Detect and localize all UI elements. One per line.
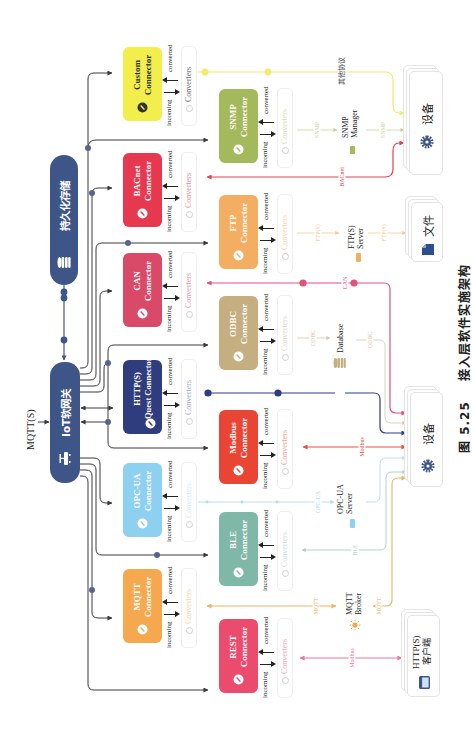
odbc-link-label: ODBC [310,329,317,348]
plugin-icon [145,418,156,429]
converted-label: converted [166,566,174,594]
incoming-label: incoming [261,672,269,698]
bus-to-snmp [88,140,208,148]
incoming-label: incoming [165,306,173,332]
converters-box[interactable]: Converters [181,359,197,439]
plugin-icon [233,351,244,362]
converters-box[interactable]: Converters [181,252,197,332]
connector-http-quest: HTTP(S)Quest Connector incoming converte… [123,360,199,434]
ftp-server[interactable]: FTP(S) Server [347,225,365,249]
odbc-link-lower [356,340,406,423]
converters-box[interactable]: Converters [277,618,293,698]
connector-mqtt: MQTTConnector incoming converted Convert… [123,569,199,643]
connector-name: CustomConnector [132,49,154,101]
converters-box[interactable]: Converters [277,409,293,489]
router-icon [58,451,71,466]
custom-connector-box[interactable]: CustomConnector [123,47,162,121]
bus-junction-dot [89,190,95,196]
snmp-connector-box[interactable]: SNMPConnector [219,89,258,163]
mqtt-connector-box[interactable]: MQTTConnector [123,569,162,643]
connector-name-line1: FTP [228,197,239,249]
ble-connector-box[interactable]: BLEConnector [219,512,258,586]
mqtt-link-label: MQTT [376,597,383,616]
converters-box[interactable]: Converters [181,568,197,648]
modbus-connector-box[interactable]: ModbusConnector [219,410,258,484]
file-label: 文件 [420,215,436,237]
ftp-connector-box[interactable]: FTPConnector [219,195,258,269]
snmp-manager[interactable]: SNMP Manager [341,110,359,138]
connector-name: ModbusConnector [228,412,250,464]
connector-name-line2: Connector [143,465,154,517]
mqtt-broker-line2: Broker [354,592,363,615]
converters-box[interactable]: Converters [181,46,197,126]
converters-box[interactable]: Converters [277,88,293,168]
opcua-connector-box[interactable]: OPC-UAConnector [123,463,162,537]
incoming-label: incoming [165,100,173,126]
snmp-link-label: SNMP [314,121,321,139]
converters-box[interactable]: Converters [277,295,293,375]
ftp-link-label: FTP(S) [315,223,322,243]
http-connector-box[interactable]: HTTP(S)Quest Connector [123,360,162,434]
connector-snmp: SNMPConnector incoming converted Convert… [219,89,295,163]
converted-label: converted [262,407,270,435]
connector-name: CANConnector [132,255,154,307]
converters-box[interactable]: Converters [181,152,197,232]
incoming-label: incoming [261,142,269,168]
connector-name: SNMPConnector [228,91,250,143]
converters-label: Converters [280,109,289,144]
ftp-server-line1: FTP(S) [347,225,356,249]
connector-name-line1: BLE [228,514,239,566]
connector-name-line2: Quest Connector [143,359,154,419]
can-connector-box[interactable]: CANConnector [123,253,162,327]
mqtt-broker[interactable]: MQTT Broker [345,592,363,615]
converted-label: converted [166,150,174,178]
device-label: 设备 [419,103,435,125]
snmp-manager-icon [350,146,355,154]
converted-arrow-icon [164,286,178,287]
incoming-label: incoming [165,206,173,232]
odbc-connector-box[interactable]: ODBCConnector [219,296,258,370]
rest-link-label: Modbus [349,647,356,669]
bacnet-connector-box[interactable]: BACnetConnector [123,153,162,227]
connector-ftp: FTPConnector incoming converted Converte… [219,195,295,269]
connector-name-line1: SNMP [228,91,239,143]
http-client-card[interactable]: HTTP(S) 客户端 [407,615,440,697]
gear-icon [421,459,435,473]
ftp-server-icon [356,253,361,262]
converted-arrow-icon [260,122,274,123]
gateway-label: IoT软网关 [58,389,73,437]
opcua-server-line2: Server [345,484,354,514]
http-link-dot [274,389,281,396]
converters-box[interactable]: Converters [277,194,293,274]
database[interactable]: Database [336,324,345,353]
persistent-storage-node[interactable]: 持久化存储 [50,155,78,285]
incoming-arrow-icon [164,614,178,615]
device-label: 设备 [420,423,436,445]
snmp-manager-line1: SNMP [341,110,350,138]
device-card-bottom[interactable]: 设备 [410,392,443,487]
converted-label: converted [166,460,174,488]
ble-link-label: BLE [352,543,359,556]
converters-label: Converters [280,316,289,351]
incoming-arrow-icon [260,557,274,558]
converters-label: Converters [280,639,289,674]
iot-gateway-node[interactable]: IoT软网关 [50,362,80,483]
connector-name: BLEConnector [228,514,250,566]
opcua-link-tick [206,501,209,504]
plugin-icon [137,518,148,529]
mqtt-link-label: MQTT [313,597,320,616]
converters-label: Converters [184,483,193,518]
converters-label: Converters [184,589,193,624]
opcua-server[interactable]: OPC-UA Server [336,484,354,514]
browser-icon [419,676,430,689]
converted-arrow-icon [260,329,274,330]
converters-box[interactable]: Converters [181,462,197,542]
opcua-server-line1: OPC-UA [336,484,345,514]
file-card[interactable]: 文件 [411,202,443,262]
converters-box[interactable]: Converters [277,511,293,591]
mqtt-link-lower [373,478,406,606]
connector-name: OPC-UAConnector [132,465,154,517]
device-card-top[interactable]: 设备 [409,71,443,175]
rest-connector-box[interactable]: RESTConnector [219,619,258,693]
connector-name: MQTTConnector [132,571,154,623]
